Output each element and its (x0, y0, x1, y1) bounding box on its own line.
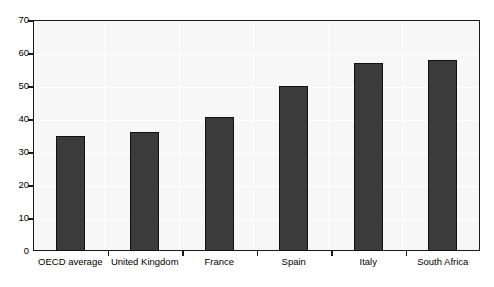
bar-chart: 70 60 50 40 30 20 10 0 OECD averageUnite… (0, 0, 494, 287)
ytick-label-40: 40 (3, 114, 29, 124)
ytick-label-30: 30 (3, 147, 29, 157)
xtick-label-united-kingdom: United Kingdom (111, 256, 179, 268)
gridline-60 (34, 54, 479, 55)
xtick-mark-3 (257, 251, 259, 256)
gridline-20 (34, 186, 479, 187)
vgridline-2 (179, 21, 180, 250)
xtick-mark-1 (108, 251, 110, 256)
xtick-label-italy: Italy (360, 256, 377, 268)
gridline-30 (34, 153, 479, 154)
gridline-40 (34, 120, 479, 121)
ytick-label-0: 0 (3, 246, 29, 256)
xtick-mark-5 (406, 251, 408, 256)
ytick-label-20: 20 (3, 180, 29, 190)
vgridline-4 (328, 21, 329, 250)
gridline-50 (34, 87, 479, 88)
xtick-label-france: France (204, 256, 234, 268)
gridline-10 (34, 219, 479, 220)
ytick-label-50: 50 (3, 81, 29, 91)
plot-area (33, 20, 480, 251)
xtick-label-oecd-average: OECD average (38, 256, 102, 268)
ytick-label-60: 60 (3, 48, 29, 58)
ytick-label-70: 70 (3, 15, 29, 25)
vgridline-5 (402, 21, 403, 250)
xtick-mark-2 (182, 251, 184, 256)
xtick-label-south-africa: South Africa (417, 256, 468, 268)
xtick-mark-4 (331, 251, 333, 256)
xtick-label-spain: Spain (282, 256, 306, 268)
ytick-label-10: 10 (3, 213, 29, 223)
vgridline-3 (253, 21, 254, 250)
vgridline-1 (104, 21, 105, 250)
y-axis-labels: 70 60 50 40 30 20 10 0 (0, 0, 29, 287)
